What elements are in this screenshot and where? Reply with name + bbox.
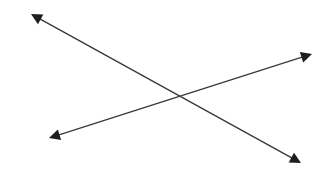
line-segment <box>57 56 305 135</box>
line-descending <box>31 14 301 163</box>
line-ascending <box>49 52 312 140</box>
arrowhead-start-icon <box>49 129 61 139</box>
lines-group <box>31 14 312 163</box>
diagram-canvas <box>0 0 322 177</box>
arrowhead-end-icon <box>300 52 312 62</box>
line-segment <box>38 18 294 159</box>
diagram-svg <box>0 0 322 177</box>
